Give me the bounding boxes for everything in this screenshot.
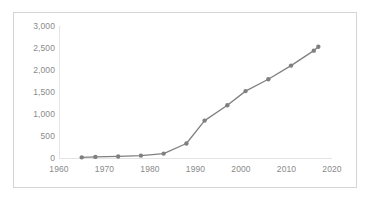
plot-area: 05001,0001,5002,0002,5003,000 1960197019… <box>14 13 358 189</box>
data-point <box>139 153 143 157</box>
data-point <box>316 44 320 48</box>
series-markers <box>80 44 321 159</box>
chart-figure: 05001,0001,5002,0002,5003,000 1960197019… <box>13 12 357 188</box>
data-point <box>161 151 165 155</box>
data-point <box>202 118 206 122</box>
data-point <box>80 155 84 159</box>
data-point <box>93 155 97 159</box>
data-point <box>266 77 270 81</box>
series-line-path <box>82 47 319 158</box>
data-point <box>184 141 188 145</box>
data-point <box>312 48 316 52</box>
data-point <box>116 154 120 158</box>
data-point <box>243 89 247 93</box>
line-series <box>14 13 358 189</box>
data-point <box>225 103 229 107</box>
data-point <box>289 63 293 67</box>
